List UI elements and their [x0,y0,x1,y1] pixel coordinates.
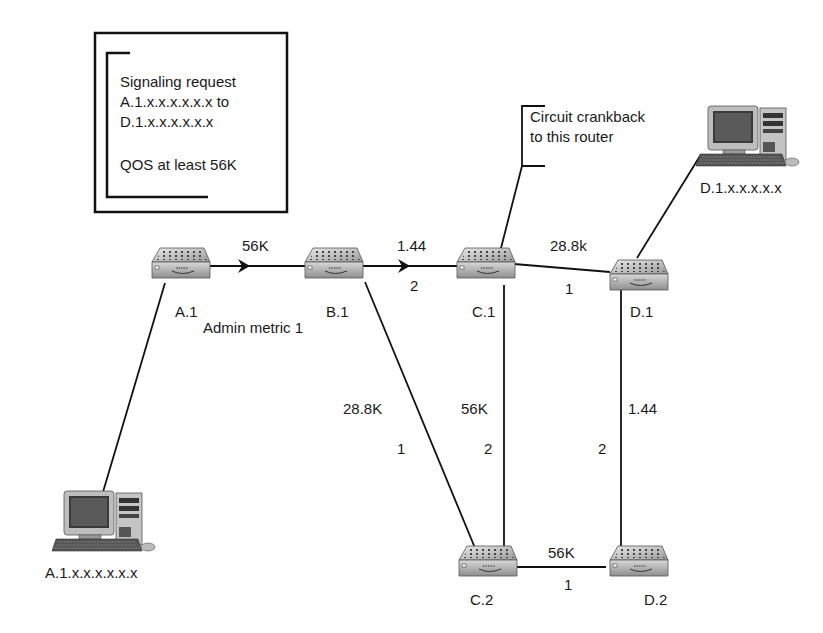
computer-icon [52,491,155,551]
signaling-request-note: Signaling request A.1.x.x.x.x.x.x to D.1… [95,33,287,212]
router-label: D.2 [644,591,667,608]
link-C1-D1-metric: 1 [565,280,573,297]
note-line-qos: QOS at least 56K [120,156,237,173]
link-C1-D1 [514,264,610,272]
link-C2-D2-metric: 1 [564,576,572,593]
router-icon [610,260,668,290]
note-line-1: Signaling request [120,73,237,90]
link-A1-B1-bandwidth: 56K [242,237,269,254]
router-icon [305,248,363,278]
link-C1-C2-metric: 2 [484,440,492,457]
link-B1-C1-metric: 2 [410,277,418,294]
router-C1[interactable]: C.1 [457,248,515,320]
admin-metric-label: Admin metric 1 [203,319,303,336]
router-label: C.2 [470,591,493,608]
router-C2[interactable]: C.2 [459,546,517,608]
link-C2-D2-bandwidth: 56K [548,544,575,561]
link-B1-C2-bandwidth: 28.8K [343,400,382,417]
links [103,156,700,567]
link-D1-D2-bandwidth: 1.44 [628,400,657,417]
link-D1-hostD [637,156,700,258]
link-C1-C2-bandwidth: 56K [461,400,488,417]
host-label: A.1.x.x.x.x.x.x [45,564,138,581]
router-label: B.1 [326,303,349,320]
note-line-2: A.1.x.x.x.x.x.x to [120,93,229,110]
network-diagram: Signaling request A.1.x.x.x.x.x.x to D.1… [0,0,823,633]
router-label: D.1 [630,303,653,320]
link-C1-D1-bandwidth: 28.8k [550,237,587,254]
router-B1[interactable]: B.1 [305,248,363,320]
link-D1-D2-metric: 2 [598,440,606,457]
router-icon [457,248,515,278]
router-label: A.1 [175,303,198,320]
router-D1[interactable]: D.1 [610,260,668,320]
router-D2[interactable]: D.2 [610,546,668,608]
note-line-3: D.1.x.x.x.x.x.x [120,113,214,130]
router-label: C.1 [472,303,495,320]
host-A[interactable]: A.1.x.x.x.x.x.x [45,491,155,581]
link-B1-C2-metric: 1 [397,440,405,457]
host-label: D.1.x.x.x.x.x [700,179,782,196]
host-D[interactable]: D.1.x.x.x.x.x [696,106,799,196]
router-A1[interactable]: A.1 [152,248,210,320]
crankback-line-2: to this router [530,128,613,145]
router-icon [610,546,668,576]
router-icon [152,248,210,278]
crankback-note: Circuit crankback to this router [500,106,646,252]
router-icon [459,546,517,576]
link-B1-C1-bandwidth: 1.44 [397,237,426,254]
computer-icon [696,106,799,166]
crankback-line-1: Circuit crankback [530,108,646,125]
link-hostA-A1 [103,283,165,492]
